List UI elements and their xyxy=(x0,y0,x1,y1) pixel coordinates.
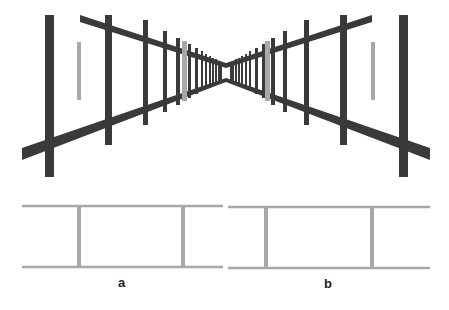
fence-post xyxy=(195,48,198,94)
front-post xyxy=(399,15,408,177)
front-post xyxy=(45,15,54,177)
fence-post xyxy=(188,44,191,98)
gray-bar xyxy=(370,207,374,268)
gray-bar xyxy=(77,206,81,267)
gray-bar xyxy=(371,42,375,100)
fence-post xyxy=(209,56,211,86)
fence-post xyxy=(143,20,148,125)
fence-post xyxy=(271,38,275,105)
fence-post xyxy=(238,58,240,84)
fence-post xyxy=(215,59,217,83)
fence-post xyxy=(232,61,234,81)
fence-post xyxy=(212,58,214,84)
perspective-illusion-figure xyxy=(0,0,449,310)
upper-rail xyxy=(226,15,372,68)
fence-post xyxy=(241,56,243,86)
fence-post xyxy=(176,38,180,105)
fence-post xyxy=(283,31,287,112)
fence-post xyxy=(218,61,220,81)
panel-b-label: b xyxy=(324,276,332,291)
gray-bar xyxy=(181,206,185,267)
fence-post xyxy=(205,54,207,88)
fence-post xyxy=(235,59,237,83)
left-corridor xyxy=(22,15,226,177)
fence-post xyxy=(163,31,167,112)
gray-bar xyxy=(264,207,268,268)
fence-post xyxy=(249,51,251,90)
panel-a-label: a xyxy=(118,275,125,290)
fence-post xyxy=(230,62,232,80)
fence-post xyxy=(304,20,309,125)
panel-a xyxy=(22,206,223,267)
fence-post xyxy=(262,44,265,98)
panel-b xyxy=(228,207,430,268)
upper-rail xyxy=(80,15,226,68)
fence-post xyxy=(220,62,222,80)
fence-post xyxy=(105,15,112,145)
fence-post xyxy=(201,51,203,90)
fence-post xyxy=(245,54,247,88)
gray-bar xyxy=(265,41,270,101)
right-corridor xyxy=(226,15,430,177)
gray-bar xyxy=(77,42,81,100)
fence-post xyxy=(255,48,258,94)
gray-bar xyxy=(182,41,187,101)
fence-post xyxy=(340,15,347,145)
